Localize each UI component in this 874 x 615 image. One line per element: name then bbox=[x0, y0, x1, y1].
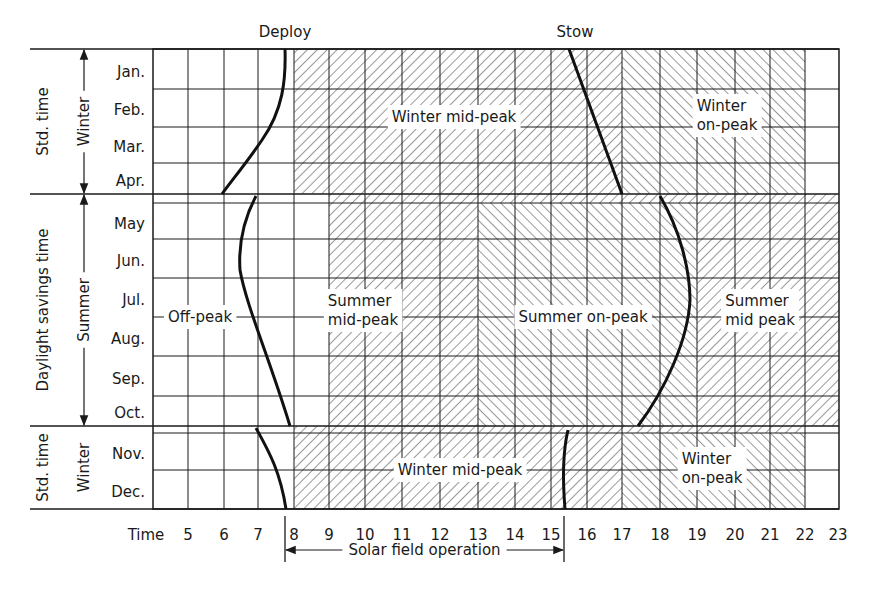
time-tick: 20 bbox=[725, 526, 744, 544]
region-label: Off-peak bbox=[164, 305, 236, 329]
time-tick: 14 bbox=[505, 526, 524, 544]
region-label-text: mid-peak bbox=[328, 311, 399, 329]
month-label: Aug. bbox=[111, 330, 145, 348]
region-label-text: Summer bbox=[725, 292, 789, 310]
region-label: Summermid-peak bbox=[324, 289, 403, 332]
region-transition-strip-spring bbox=[329, 194, 839, 203]
time-tick: 15 bbox=[541, 526, 560, 544]
deploy-label: Deploy bbox=[259, 23, 312, 41]
region-label-text: Winter bbox=[697, 97, 747, 115]
month-label: Sep. bbox=[112, 370, 145, 388]
region-label-text: Summer bbox=[328, 292, 392, 310]
region-label: Summermid peak bbox=[721, 289, 799, 332]
region-label-text: on-peak bbox=[682, 469, 743, 487]
solar-field-label: Solar field operation bbox=[348, 541, 500, 559]
month-label: Jul. bbox=[121, 291, 145, 309]
stow-label: Stow bbox=[557, 23, 594, 41]
month-label: Jun. bbox=[116, 252, 145, 270]
region-label-text: Winter bbox=[682, 450, 732, 468]
region-label-text: mid peak bbox=[725, 311, 795, 329]
season-label: Summer bbox=[75, 277, 93, 341]
region-label: Winter mid-peak bbox=[388, 105, 521, 129]
region-label: Winter mid-peak bbox=[394, 458, 527, 482]
region-label: Winteron-peak bbox=[693, 94, 762, 137]
deploy-curve bbox=[222, 49, 285, 194]
time-tick: 17 bbox=[612, 526, 631, 544]
region-label-text: Winter mid-peak bbox=[398, 461, 523, 479]
region-label-text: on-peak bbox=[697, 116, 758, 134]
region-label-text: Winter mid-peak bbox=[392, 108, 517, 126]
time-tick: 16 bbox=[577, 526, 596, 544]
tou-diagram: Winter mid-peakWinteron-peakOff-peakSumm… bbox=[0, 0, 874, 615]
time-tick: 6 bbox=[219, 526, 229, 544]
time-tick: 19 bbox=[687, 526, 706, 544]
time-standard-label: Std. time bbox=[34, 87, 52, 155]
time-tick: 22 bbox=[795, 526, 814, 544]
left-axis: Std. timeDaylight savings timeStd. timeW… bbox=[34, 50, 145, 502]
season-label: Winter bbox=[75, 442, 93, 492]
time-tick: 8 bbox=[289, 526, 299, 544]
month-label: Feb. bbox=[114, 101, 145, 119]
region-transition-strip-fall bbox=[294, 426, 805, 433]
month-label: Dec. bbox=[111, 483, 145, 501]
month-label: Mar. bbox=[113, 138, 145, 156]
season-label: Winter bbox=[75, 96, 93, 146]
time-standard-label: Std. time bbox=[34, 433, 52, 501]
region-label: Summer on-peak bbox=[514, 305, 651, 329]
time-tick: 9 bbox=[324, 526, 334, 544]
deploy-curve bbox=[240, 196, 290, 426]
month-label: Nov. bbox=[112, 445, 145, 463]
region-label-text: Off-peak bbox=[168, 308, 232, 326]
time-tick: 18 bbox=[650, 526, 669, 544]
time-standard-label: Daylight savings time bbox=[34, 228, 52, 391]
time-tick: 21 bbox=[760, 526, 779, 544]
month-label: Apr. bbox=[116, 172, 145, 190]
region-label: Winteron-peak bbox=[678, 447, 747, 490]
time-tick: 7 bbox=[253, 526, 263, 544]
time-axis-label: Time bbox=[127, 526, 165, 544]
time-tick: 23 bbox=[828, 526, 847, 544]
month-label: Oct. bbox=[114, 404, 145, 422]
deploy-curve bbox=[256, 428, 286, 509]
region-label-text: Summer on-peak bbox=[518, 308, 647, 326]
month-label: May bbox=[114, 215, 145, 233]
month-label: Jan. bbox=[116, 63, 145, 81]
time-tick: 5 bbox=[183, 526, 193, 544]
